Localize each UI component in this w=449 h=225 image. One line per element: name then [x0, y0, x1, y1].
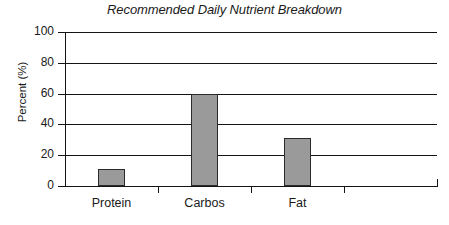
bar-carbos[interactable] — [191, 94, 218, 186]
plot-area — [65, 32, 437, 186]
x-tick-mark — [251, 186, 252, 193]
x-tick-mark — [344, 186, 345, 193]
y-tick-label: 100 — [34, 24, 54, 38]
y-tick-label: 60 — [41, 86, 54, 100]
x-tick-mark — [158, 186, 159, 193]
y-axis-spine — [65, 32, 66, 187]
y-tick-label: 20 — [41, 147, 54, 161]
y-tick-mark — [58, 186, 65, 187]
gridline-60 — [65, 94, 437, 95]
bar-chart: Recommended Daily Nutrient Breakdown Per… — [0, 0, 449, 225]
y-tick-label: 0 — [47, 178, 54, 192]
y-tick-label: 80 — [41, 55, 54, 69]
x-tick-label-fat: Fat — [288, 196, 306, 210]
x-tick-label-carbos: Carbos — [184, 196, 224, 210]
y-tick-mark — [58, 32, 65, 33]
y-axis-title: Percent (%) — [16, 37, 28, 147]
bar-fat[interactable] — [284, 138, 311, 186]
bar-protein[interactable] — [98, 169, 125, 186]
gridline-40 — [65, 124, 437, 125]
y-tick-mark — [58, 155, 65, 156]
gridline-100 — [65, 32, 437, 33]
gridline-20 — [65, 155, 437, 156]
y-tick-mark — [58, 94, 65, 95]
x-axis-right-edge-tick — [437, 179, 438, 187]
y-tick-label: 40 — [41, 116, 54, 130]
y-tick-mark — [58, 124, 65, 125]
y-tick-mark — [58, 63, 65, 64]
gridline-80 — [65, 63, 437, 64]
x-tick-label-protein: Protein — [92, 196, 132, 210]
chart-title: Recommended Daily Nutrient Breakdown — [0, 2, 449, 17]
